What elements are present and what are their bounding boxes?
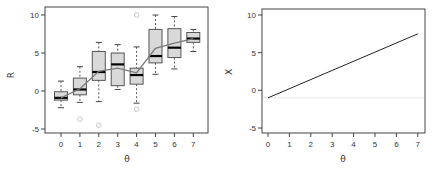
y-tick-label: 0 bbox=[35, 87, 40, 96]
y-axis: -50510 bbox=[30, 11, 45, 134]
box-group bbox=[187, 29, 200, 51]
x-axis-title: θ bbox=[340, 154, 346, 164]
box-group bbox=[111, 45, 124, 90]
box-marks bbox=[55, 13, 200, 128]
outlier-point bbox=[78, 117, 83, 122]
y-tick-label: 10 bbox=[30, 11, 39, 20]
y-tick-label: 0 bbox=[252, 86, 257, 95]
box-group bbox=[55, 81, 68, 108]
x-tick-label: 6 bbox=[172, 140, 177, 149]
y-tick-label: -5 bbox=[249, 124, 257, 133]
x-axis-title: θ bbox=[124, 154, 130, 164]
plot-frame bbox=[262, 9, 425, 133]
figure: -50510 01234567 R θ -50510 01234567 X θ bbox=[0, 0, 433, 173]
y-tick-label: 5 bbox=[35, 49, 40, 58]
x-tick-label: 4 bbox=[351, 140, 356, 149]
panel-line-X: -50510 01234567 X θ bbox=[224, 9, 425, 164]
x-tick-label: 2 bbox=[97, 140, 102, 149]
x-tick-label: 6 bbox=[394, 140, 399, 149]
y-axis: -50510 bbox=[247, 11, 262, 133]
box-iqr bbox=[149, 29, 162, 62]
outlier-point bbox=[134, 107, 139, 112]
box-group bbox=[92, 42, 105, 127]
y-axis-title: R bbox=[6, 72, 16, 78]
outlier-point bbox=[97, 123, 102, 128]
x-tick-label: 3 bbox=[115, 140, 120, 149]
box-group bbox=[73, 67, 86, 122]
y-axis-title: X bbox=[224, 69, 234, 75]
box-iqr bbox=[73, 78, 86, 95]
x-tick-label: 7 bbox=[191, 140, 196, 149]
x-tick-label: 5 bbox=[373, 140, 378, 149]
x-tick-label: 4 bbox=[134, 140, 139, 149]
x-tick-label: 1 bbox=[287, 140, 292, 149]
box-group bbox=[149, 15, 162, 74]
x-tick-label: 0 bbox=[266, 140, 271, 149]
y-tick-label: 5 bbox=[252, 49, 257, 58]
line-marks bbox=[263, 34, 424, 98]
box-iqr bbox=[130, 68, 143, 84]
x-tick-label: 5 bbox=[153, 140, 158, 149]
x-tick-label: 0 bbox=[59, 140, 64, 149]
x-tick-label: 3 bbox=[330, 140, 335, 149]
panel-boxplot-R: -50510 01234567 R θ bbox=[6, 7, 208, 164]
y-tick-label: 10 bbox=[247, 11, 256, 20]
x-tick-label: 7 bbox=[416, 140, 421, 149]
x-axis: 01234567 bbox=[266, 133, 421, 149]
outlier-point bbox=[134, 13, 139, 18]
x-axis: 01234567 bbox=[59, 133, 196, 149]
y-tick-label: -5 bbox=[32, 125, 40, 134]
box-iqr bbox=[187, 32, 200, 42]
series-line-X bbox=[268, 34, 418, 98]
x-tick-label: 1 bbox=[78, 140, 83, 149]
box-group bbox=[130, 13, 143, 112]
x-tick-label: 2 bbox=[309, 140, 314, 149]
